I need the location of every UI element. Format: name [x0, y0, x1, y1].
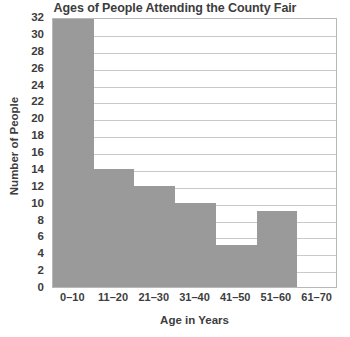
bar [53, 18, 94, 287]
x-tick-label: 41–50 [215, 291, 256, 303]
histogram-chart: Ages of People Attending the County Fair… [0, 0, 350, 337]
x-tick-label: 51–60 [256, 291, 297, 303]
plot-area [52, 18, 337, 288]
y-tick-label: 28 [31, 46, 44, 58]
y-tick-label: 16 [31, 147, 44, 159]
y-tick-label: 26 [31, 63, 44, 75]
y-tick-label: 2 [38, 265, 44, 277]
x-tick-label: 21–30 [133, 291, 174, 303]
y-tick-label: 8 [38, 215, 44, 227]
bar [94, 169, 135, 287]
y-tick-label: 20 [31, 114, 44, 126]
x-axis-title: Age in Years [52, 314, 337, 326]
bar [175, 203, 216, 287]
y-tick-label: 10 [31, 198, 44, 210]
bars [53, 19, 336, 287]
y-tick-label: 32 [31, 12, 44, 24]
y-tick-label: 22 [31, 97, 44, 109]
x-axis-tick-labels: 0–1011–2021–3031–4041–5051–6061–70 [52, 291, 337, 311]
bar [216, 245, 257, 287]
y-tick-label: 24 [31, 80, 44, 92]
chart-title: Ages of People Attending the County Fair [0, 1, 350, 15]
y-tick-label: 6 [38, 232, 44, 244]
y-tick-label: 30 [31, 29, 44, 41]
bar [134, 186, 175, 287]
x-tick-label: 0–10 [52, 291, 93, 303]
y-axis-tick-labels: 02468101214161820222426283032 [0, 18, 48, 288]
x-tick-label: 11–20 [93, 291, 134, 303]
x-tick-label: 31–40 [174, 291, 215, 303]
y-tick-label: 0 [38, 282, 44, 294]
bar [257, 211, 298, 287]
y-tick-label: 18 [31, 130, 44, 142]
y-tick-label: 4 [38, 249, 44, 261]
x-tick-label: 61–70 [296, 291, 337, 303]
y-tick-label: 14 [31, 164, 44, 176]
y-tick-label: 12 [31, 181, 44, 193]
